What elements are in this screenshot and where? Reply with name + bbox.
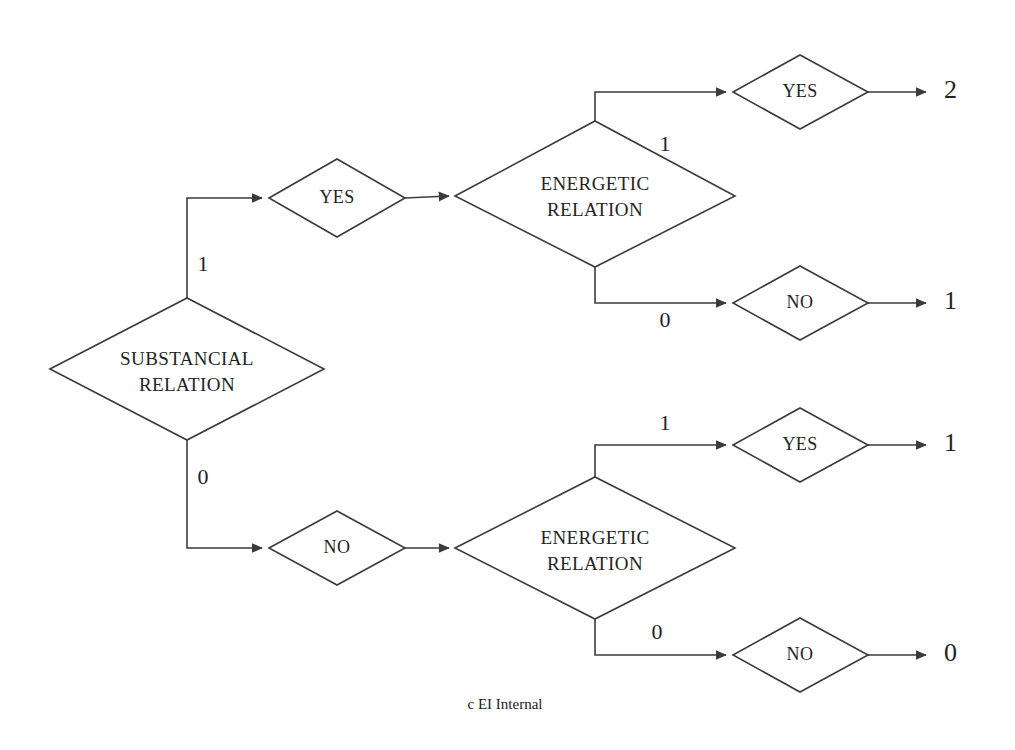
node-energetic-relation-bottom[interactable]: ENERGETIC RELATION [455,477,735,619]
node-label-line2: RELATION [547,199,643,220]
edge-root-to-yes-top [187,198,262,298]
edge-label-root-no: 0 [198,464,209,489]
output-value-1-upper: 1 [944,286,957,315]
node-no-bottom[interactable]: NO [269,511,405,585]
node-label: YES [782,81,817,101]
node-label-line1: SUBSTANCIAL [120,348,254,369]
edge-label-energetic-bottom-no: 0 [652,619,663,644]
edge-root-to-no-bottom [187,440,262,548]
node-label: NO [324,537,351,557]
node-label-line2: RELATION [139,374,235,395]
node-yes-bottom-right[interactable]: YES [733,408,868,482]
node-label-line1: ENERGETIC [540,173,649,194]
node-label: YES [782,434,817,454]
node-substancial-relation[interactable]: SUBSTANCIAL RELATION [50,298,324,440]
output-value-0: 0 [944,638,957,667]
node-label-line2: RELATION [547,553,643,574]
edge-label-energetic-top-yes: 1 [660,131,671,156]
edge-label-root-yes: 1 [198,251,209,276]
decision-tree-svg: SUBSTANCIAL RELATION YES ENERGETIC RELAT… [0,0,1015,750]
figure-caption: c EI Internal [468,696,543,712]
edge-energetic-top-no-branch [595,267,726,303]
flowchart-canvas: SUBSTANCIAL RELATION YES ENERGETIC RELAT… [0,0,1015,750]
edge-label-energetic-top-no: 0 [660,307,671,332]
node-yes-top[interactable]: YES [269,159,405,237]
node-yes-top-right[interactable]: YES [733,55,868,129]
node-label: NO [787,292,814,312]
node-label: YES [319,187,354,207]
node-no-bottom-right[interactable]: NO [733,618,868,692]
edge-energetic-bottom-yes-branch [595,445,726,477]
output-value-2: 2 [944,75,957,104]
edge-yes-top-to-energetic-top [405,196,449,198]
output-group: 2 1 1 0 [944,75,957,667]
node-label: NO [787,644,814,664]
node-no-top-right[interactable]: NO [733,266,868,340]
output-value-1-lower: 1 [944,428,957,457]
edge-label-energetic-bottom-yes: 1 [660,410,671,435]
edge-energetic-top-yes-branch [595,92,726,121]
node-label-line1: ENERGETIC [540,527,649,548]
node-energetic-relation-top[interactable]: ENERGETIC RELATION [455,121,735,267]
